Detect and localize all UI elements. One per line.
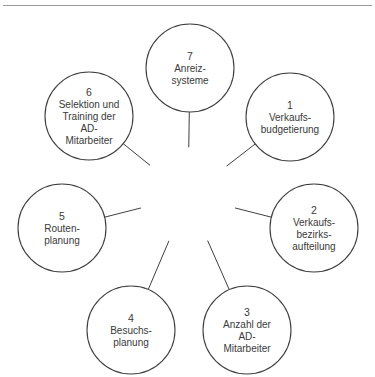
- node-4[interactable]: 4Besuchs-planung: [87, 286, 175, 374]
- node-label-line-3: Anzahl der: [223, 319, 271, 330]
- node-label-line-3: AD-: [238, 331, 255, 342]
- node-label-line-4: Besuchs-: [110, 325, 152, 336]
- node-label-line-7: systeme: [171, 75, 209, 86]
- node-number-5: 5: [59, 210, 65, 222]
- node-number-7: 7: [187, 50, 193, 62]
- node-7[interactable]: 7Anreiz-systeme: [146, 24, 234, 112]
- node-label-line-6: AD-: [80, 123, 97, 134]
- node-5[interactable]: 5Routen-planung: [18, 184, 106, 272]
- node-label-line-6: Selektion und: [59, 99, 120, 110]
- radial-diagram-canvas: Entscheidungstatbestände 1Verkaufs-budge…: [0, 0, 375, 377]
- node-label-line-2: Verkaufs-: [293, 217, 335, 228]
- node-label-line-1: budgetierung: [261, 124, 319, 135]
- spoke-line-7: [189, 112, 190, 148]
- spoke-line-4: [148, 241, 169, 290]
- node-label-line-1: Verkaufs-: [269, 112, 311, 123]
- hub-group: Entscheidungstatbestände: [140, 148, 237, 245]
- node-label-line-4: planung: [113, 337, 149, 348]
- spoke-line-1: [226, 144, 255, 166]
- node-number-2: 2: [311, 204, 317, 216]
- spoke-line-3: [208, 240, 230, 289]
- node-3[interactable]: 3Anzahl derAD-Mitarbeiter: [203, 286, 291, 374]
- node-label-line-6: Mitarbeiter: [65, 135, 113, 146]
- node-1[interactable]: 1Verkaufs-budgetierung: [246, 73, 334, 161]
- node-circle-3[interactable]: [203, 286, 291, 374]
- node-number-4: 4: [128, 312, 134, 324]
- node-circle-2[interactable]: [270, 184, 358, 272]
- node-2[interactable]: 2Verkaufs-bezirks-aufteilung: [270, 184, 358, 272]
- spoke-line-5: [105, 208, 141, 217]
- node-number-3: 3: [244, 306, 250, 318]
- node-label-line-6: Training der: [63, 111, 117, 122]
- node-label-line-5: Routen-: [44, 223, 80, 234]
- hub-label-line: tatbestände: [161, 196, 216, 208]
- node-label-line-3: Mitarbeiter: [223, 343, 271, 354]
- node-label-line-5: planung: [44, 235, 80, 246]
- hub-label-line: Entscheidungs: [154, 184, 223, 196]
- node-label-line-2: aufteilung: [292, 241, 335, 252]
- node-label-line-7: Anreiz-: [174, 63, 206, 74]
- node-number-6: 6: [86, 86, 92, 98]
- node-6[interactable]: 6Selektion undTraining derAD-Mitarbeiter: [45, 72, 133, 160]
- node-label-line-2: bezirks-: [296, 229, 331, 240]
- spoke-line-6: [123, 144, 150, 166]
- spoke-line-2: [235, 208, 271, 217]
- diagram-figure: Entscheidungstatbestände 1Verkaufs-budge…: [0, 0, 375, 377]
- node-number-1: 1: [287, 99, 293, 111]
